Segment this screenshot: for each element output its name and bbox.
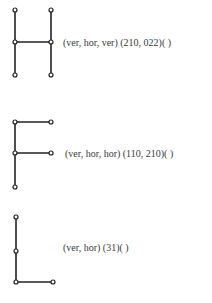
graph-node bbox=[14, 215, 18, 219]
graph-node bbox=[49, 73, 53, 77]
graph-node bbox=[14, 249, 18, 253]
letter-h-graph bbox=[13, 8, 53, 77]
graph-node bbox=[13, 8, 17, 12]
graph-node bbox=[13, 151, 17, 155]
graph-node bbox=[13, 120, 17, 124]
letter-h-encoding-label: (ver, hor, ver) (210, 022)( ) bbox=[63, 37, 171, 49]
graph-node bbox=[14, 280, 18, 284]
graph-node bbox=[51, 280, 55, 284]
letter-f-encoding-label: (ver, hor, hor) (110, 210)( ) bbox=[65, 148, 173, 160]
graph-node bbox=[49, 120, 53, 124]
letter-l-graph bbox=[14, 215, 55, 284]
graph-node bbox=[13, 40, 17, 44]
graph-node bbox=[49, 8, 53, 12]
letter-f-graph bbox=[13, 120, 53, 189]
graph-node bbox=[49, 151, 53, 155]
graph-node bbox=[13, 73, 17, 77]
graph-node bbox=[13, 185, 17, 189]
letter-l-encoding-label: (ver, hor) (31)( ) bbox=[63, 242, 129, 254]
graph-node bbox=[49, 40, 53, 44]
